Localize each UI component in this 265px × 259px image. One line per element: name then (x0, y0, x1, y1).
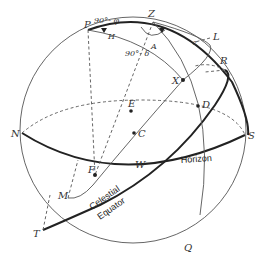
label-zenith-distance: z (192, 38, 198, 47)
zenith-to-f (95, 22, 153, 175)
label-codeclination: 90°- δ (125, 49, 149, 58)
label-s: S (248, 130, 255, 141)
label-t: T (33, 228, 41, 239)
label-hour-angle: H (107, 32, 116, 41)
point-d (196, 104, 200, 108)
label-c: C (138, 128, 146, 139)
label-x: X (171, 75, 180, 86)
label-l: L (212, 31, 220, 42)
point-x (181, 78, 185, 82)
celestial-sphere-diagram: P Z L R X D E C N S F W M T Q 90°- φ 90°… (0, 0, 265, 259)
label-w: W (135, 159, 146, 170)
label-n: N (10, 128, 21, 139)
vertical-circle-zq (153, 22, 205, 215)
label-colatitude: 90°- φ (94, 16, 119, 25)
label-d: D (201, 99, 210, 110)
label-p: P (83, 19, 91, 30)
celestial-equator (43, 70, 228, 230)
point-c (132, 131, 136, 135)
point-e (129, 109, 133, 113)
label-azimuth: A (150, 42, 157, 51)
m-dash (68, 160, 78, 198)
label-z: Z (147, 8, 156, 19)
label-e: E (127, 98, 136, 109)
label-m: M (57, 190, 69, 201)
label-f: F (87, 164, 96, 175)
pole-to-f (88, 30, 95, 175)
label-r: R (219, 55, 228, 66)
label-horizon: Horizon (180, 153, 212, 165)
label-q: Q (184, 242, 192, 253)
